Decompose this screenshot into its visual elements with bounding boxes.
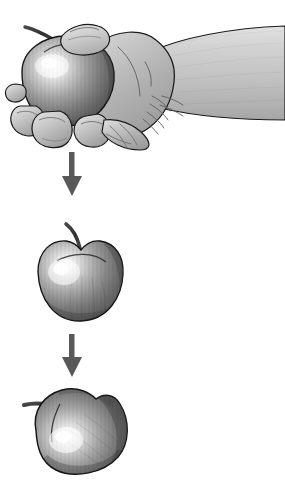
arrow-2-shaft xyxy=(69,334,75,360)
arrow-1-shaft xyxy=(69,152,75,179)
finger-little xyxy=(5,84,26,102)
finger-middle xyxy=(32,111,72,148)
apple-deformation-illustration: Hand squeezing an apple causing deformat… xyxy=(0,0,285,490)
illustration-canvas: Hand squeezing an apple causing deformat… xyxy=(0,0,285,490)
